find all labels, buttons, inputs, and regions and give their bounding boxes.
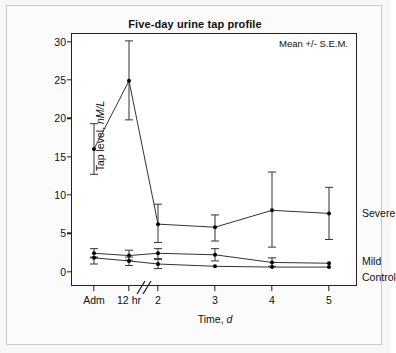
data-point-marker	[270, 260, 274, 264]
data-point-marker	[213, 264, 217, 268]
y-tick-label-25: 25	[54, 74, 66, 86]
x-tick-label-4: 4	[269, 294, 275, 306]
data-point-marker	[127, 259, 131, 263]
series-label-severe: Severe	[362, 207, 395, 219]
data-point-marker	[92, 251, 96, 255]
series-label-control: Control	[362, 271, 396, 283]
data-point-marker	[127, 79, 131, 83]
data-point-marker	[92, 147, 96, 151]
y-tick-label-10: 10	[54, 189, 66, 201]
data-point-marker	[270, 208, 274, 212]
data-point-marker	[156, 262, 160, 266]
plot-area: Mean +/- S.E.M. Tap level, nM/L 05101520…	[71, 33, 357, 286]
data-point-marker	[213, 253, 217, 257]
x-axis-label-units: d	[226, 313, 232, 325]
series-label-mild: Mild	[362, 255, 381, 267]
y-tick-label-0: 0	[60, 266, 66, 278]
data-point-marker	[327, 211, 331, 215]
x-tick-label-Adm: Adm	[83, 294, 105, 306]
y-tick-label-5: 5	[60, 227, 66, 239]
series-plot	[72, 34, 358, 287]
data-point-marker	[156, 251, 160, 255]
y-tick-label-15: 15	[54, 151, 66, 163]
y-tick-label-30: 30	[54, 36, 66, 48]
x-tick-label-2: 2	[155, 294, 161, 306]
data-point-marker	[92, 256, 96, 260]
data-point-marker	[213, 225, 217, 229]
x-axis-label-plain: Time,	[198, 313, 227, 325]
data-point-marker	[327, 261, 331, 265]
x-axis-label: Time, d	[72, 313, 358, 325]
series-severe	[90, 41, 333, 247]
data-point-marker	[270, 265, 274, 269]
data-point-marker	[156, 222, 160, 226]
figure-card: Five-day urine tap profile Mean +/- S.E.…	[6, 5, 382, 345]
chart-title: Five-day urine tap profile	[7, 18, 383, 30]
x-tick-label-5: 5	[326, 294, 332, 306]
y-tick-label-20: 20	[54, 112, 66, 124]
data-point-marker	[327, 265, 331, 269]
x-tick-label-3: 3	[212, 294, 218, 306]
